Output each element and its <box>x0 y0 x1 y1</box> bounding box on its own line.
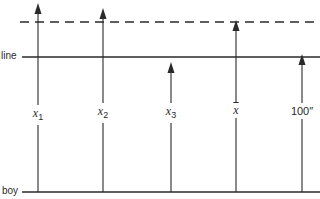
arrow-x3 <box>168 62 175 192</box>
arrowhead-icon <box>299 54 306 65</box>
label-x3: x3 <box>166 103 176 123</box>
label-x1: x1 <box>33 105 43 125</box>
arrow-x1 <box>35 3 42 192</box>
arrowhead-icon <box>35 3 42 14</box>
line-label: line <box>1 51 17 61</box>
arrowhead-icon <box>168 62 175 73</box>
label-100-inches: 100″ <box>291 103 313 119</box>
boy-label: boy <box>2 186 18 196</box>
arrow-x2 <box>100 8 107 192</box>
label-x2: x2 <box>98 103 108 123</box>
measurement-diagram <box>0 0 320 199</box>
label-xbar: x <box>233 102 238 118</box>
arrowhead-icon <box>100 8 107 19</box>
arrow-100-inches <box>299 54 306 192</box>
